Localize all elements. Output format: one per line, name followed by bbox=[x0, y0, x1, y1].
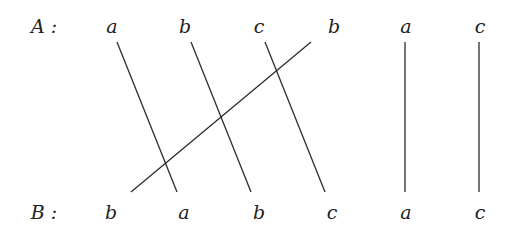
top-node: c bbox=[254, 15, 265, 37]
top-node: a bbox=[106, 15, 117, 37]
bottom-node: b bbox=[253, 201, 265, 223]
matching-diagram: A : a b c b a c B : b a b c a c bbox=[0, 0, 513, 234]
matching-edge bbox=[131, 42, 311, 192]
bottom-node: b bbox=[105, 201, 117, 223]
bottom-node: a bbox=[400, 201, 411, 223]
matching-edge bbox=[265, 42, 325, 192]
matching-edges bbox=[117, 42, 479, 192]
row-label-a: A : bbox=[29, 15, 57, 37]
top-node: c bbox=[475, 15, 486, 37]
bottom-row-nodes: b a b c a c bbox=[105, 201, 486, 223]
bottom-node: c bbox=[475, 201, 486, 223]
bottom-node: c bbox=[327, 201, 338, 223]
top-node: a bbox=[400, 15, 411, 37]
matching-edge bbox=[117, 42, 177, 192]
top-node: b bbox=[328, 15, 340, 37]
row-label-b: B : bbox=[30, 201, 57, 223]
top-node: b bbox=[179, 15, 191, 37]
top-row-nodes: a b c b a c bbox=[106, 15, 485, 37]
bottom-node: a bbox=[178, 201, 189, 223]
